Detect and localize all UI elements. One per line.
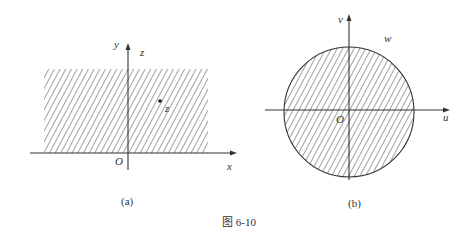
panel-b: v w O u (b): [265, 13, 450, 210]
origin-label: O: [115, 155, 123, 167]
x-axis-arrow-icon: [230, 151, 237, 156]
origin-label: O: [336, 113, 344, 125]
point-label-z: z: [164, 102, 170, 114]
region-label-w: w: [384, 32, 392, 44]
v-axis-label: v: [338, 13, 343, 25]
y-axis-arrow-icon: [126, 43, 131, 50]
figure-caption: 图 6-10: [222, 216, 256, 228]
region-label-z: z: [139, 46, 145, 58]
panel-b-sublabel: (b): [348, 197, 361, 210]
panel-a: y z z O x (a): [30, 38, 237, 208]
y-axis-label: y: [113, 38, 119, 50]
point-z-dot: [158, 99, 162, 103]
u-axis-label: u: [443, 111, 449, 123]
panel-a-sublabel: (a): [121, 195, 134, 208]
upper-half-plane-region: [44, 69, 208, 153]
x-axis-label: x: [226, 160, 232, 172]
figure-canvas: y z z O x (a) v w O u (b) 图 6-10: [0, 0, 473, 236]
v-axis-arrow-icon: [347, 14, 352, 21]
disk-region: [280, 40, 420, 185]
